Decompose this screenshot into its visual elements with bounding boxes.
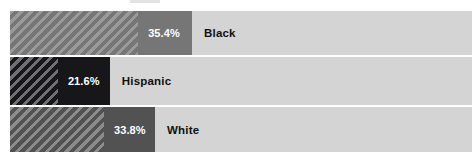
bars-area: 35.4% Black 21.6% Hispanic 33.8% White xyxy=(10,11,472,152)
bar-hatch-hispanic xyxy=(10,57,58,105)
table-row[interactable]: 21.6% Hispanic xyxy=(10,57,472,105)
bar-value-label: 35.4% xyxy=(148,27,180,39)
bar-hatch-white xyxy=(10,107,104,152)
bar-category-label: Black xyxy=(204,27,236,39)
bar-value-label: 21.6% xyxy=(68,75,100,87)
bar-category-label: White xyxy=(167,124,199,136)
bar-chart: 35.4% Black 21.6% Hispanic 33.8% White xyxy=(0,0,472,164)
bar-category-label: Hispanic xyxy=(122,75,172,87)
bar-value-label: 33.8% xyxy=(114,124,146,136)
table-row[interactable]: 35.4% Black xyxy=(10,11,472,55)
clipped-top-artifact xyxy=(130,0,160,3)
bar-hatch-black xyxy=(10,11,138,55)
table-row[interactable]: 33.8% White xyxy=(10,107,472,152)
